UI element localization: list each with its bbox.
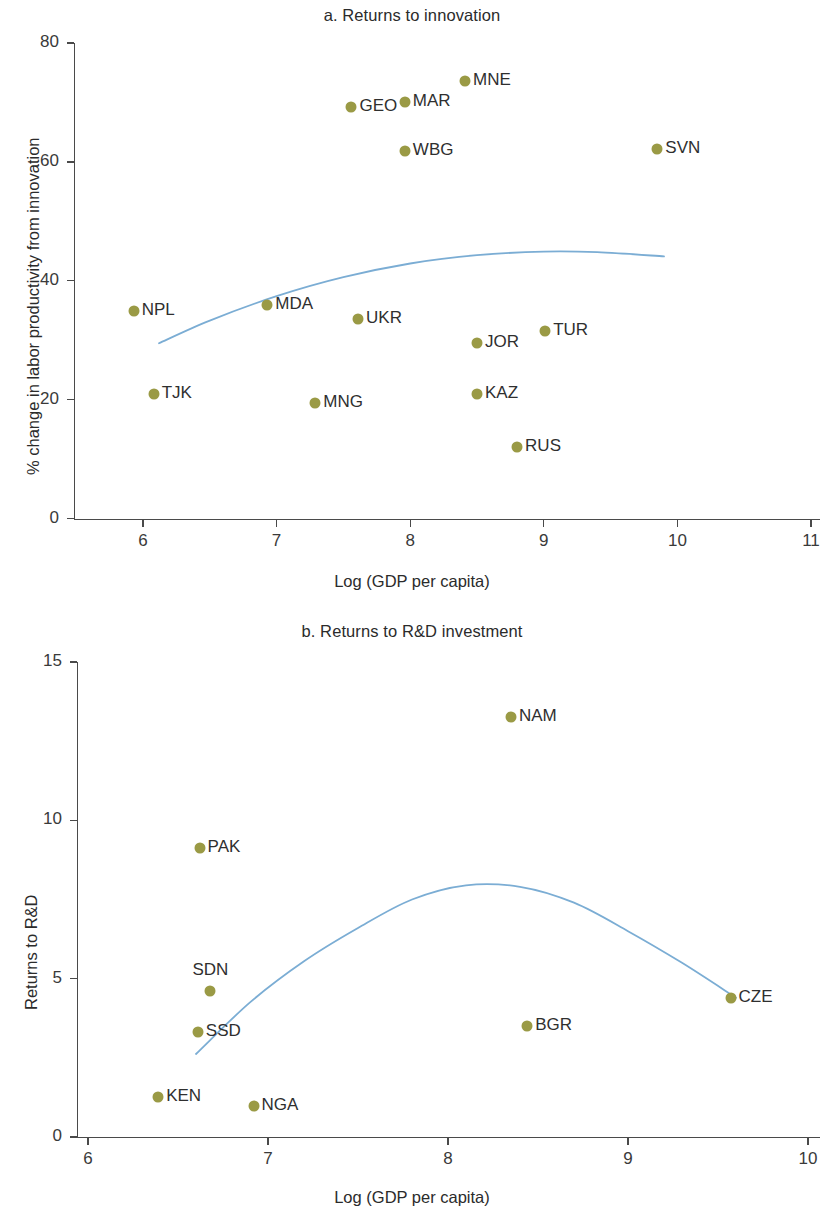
x-tick-panel_b-9 xyxy=(627,1138,628,1145)
y-tick-label-panel_a-40: 40 xyxy=(4,270,59,290)
y-tick-label-panel_a-0: 0 xyxy=(4,508,59,528)
x-tick-label-panel_a-11: 11 xyxy=(781,531,824,551)
x-tick-label-panel_a-10: 10 xyxy=(647,531,707,551)
data-point-WBG xyxy=(399,146,410,157)
data-point-label-GEO: GEO xyxy=(359,96,397,116)
panel-b-x-axis-title: Log (GDP per capita) xyxy=(0,1188,824,1207)
data-point-KEN xyxy=(153,1092,164,1103)
y-tick-panel_a-80 xyxy=(67,42,74,43)
x-tick-panel_a-7 xyxy=(276,520,277,527)
data-point-SVN xyxy=(652,144,663,155)
chart-panel-a: a. Returns to innovation % change in lab… xyxy=(0,0,824,610)
y-tick-label-panel_b-0: 0 xyxy=(7,1126,62,1146)
data-point-MNE xyxy=(459,76,470,87)
data-point-label-BGR: BGR xyxy=(535,1015,572,1035)
data-point-KAZ xyxy=(472,389,483,400)
data-point-NPL xyxy=(128,306,139,317)
x-tick-label-panel_b-9: 9 xyxy=(598,1149,658,1169)
y-tick-label-panel_a-60: 60 xyxy=(4,151,59,171)
x-tick-panel_b-10 xyxy=(807,1138,808,1145)
data-point-SDN xyxy=(205,986,216,997)
x-tick-label-panel_a-8: 8 xyxy=(380,531,440,551)
panel-a-y-axis-line xyxy=(74,43,75,520)
data-point-MAR xyxy=(399,97,410,108)
data-point-label-NAM: NAM xyxy=(519,706,557,726)
data-point-label-CZE: CZE xyxy=(739,987,773,1007)
trendline-panel_b xyxy=(0,610,824,1170)
data-point-label-WBG: WBG xyxy=(413,140,454,160)
panel-a-plot-area: 02040608067891011NPLTJKMDAMNGGEOUKRMARWB… xyxy=(0,0,824,540)
y-tick-panel_a-60 xyxy=(67,161,74,162)
data-point-label-PAK: PAK xyxy=(208,837,241,857)
data-point-TJK xyxy=(148,389,159,400)
x-tick-panel_b-6 xyxy=(87,1138,88,1145)
panel-a-x-axis-title: Log (GDP per capita) xyxy=(0,572,824,591)
y-tick-panel_b-5 xyxy=(70,978,77,979)
y-tick-panel_a-20 xyxy=(67,399,74,400)
data-point-MNG xyxy=(310,398,321,409)
x-tick-panel_a-8 xyxy=(410,520,411,527)
data-point-label-KEN: KEN xyxy=(166,1086,201,1106)
x-tick-label-panel_a-6: 6 xyxy=(113,531,173,551)
y-tick-label-panel_b-5: 5 xyxy=(7,968,62,988)
x-tick-panel_b-7 xyxy=(267,1138,268,1145)
panel-a-x-axis-line xyxy=(74,519,820,520)
data-point-UKR xyxy=(353,314,364,325)
x-tick-panel_a-6 xyxy=(142,520,143,527)
x-tick-panel_a-9 xyxy=(543,520,544,527)
y-tick-panel_b-15 xyxy=(70,661,77,662)
data-point-label-MDA: MDA xyxy=(275,294,313,314)
data-point-label-RUS: RUS xyxy=(525,436,561,456)
data-point-label-SVN: SVN xyxy=(665,138,700,158)
y-tick-label-panel_a-80: 80 xyxy=(4,32,59,52)
y-tick-panel_b-0 xyxy=(70,1136,77,1137)
y-tick-label-panel_b-15: 15 xyxy=(7,651,62,671)
data-point-label-SDN: SDN xyxy=(192,960,228,980)
data-point-label-JOR: JOR xyxy=(485,332,519,352)
data-point-label-SSD: SSD xyxy=(206,1021,241,1041)
data-point-NAM xyxy=(506,712,517,723)
y-tick-label-panel_b-10: 10 xyxy=(7,809,62,829)
x-tick-label-panel_b-7: 7 xyxy=(238,1149,298,1169)
panel-b-y-axis-line xyxy=(77,662,78,1138)
data-point-label-KAZ: KAZ xyxy=(485,383,518,403)
y-tick-panel_a-40 xyxy=(67,280,74,281)
data-point-RUS xyxy=(512,442,523,453)
data-point-label-MNG: MNG xyxy=(323,392,363,412)
data-point-label-MAR: MAR xyxy=(413,91,451,111)
data-point-JOR xyxy=(472,337,483,348)
data-point-SSD xyxy=(192,1026,203,1037)
x-tick-label-panel_b-10: 10 xyxy=(778,1149,824,1169)
y-tick-panel_b-10 xyxy=(70,820,77,821)
data-point-MDA xyxy=(262,300,273,311)
x-tick-label-panel_a-7: 7 xyxy=(247,531,307,551)
data-point-NGA xyxy=(248,1100,259,1111)
trendline-panel_a xyxy=(0,0,824,560)
panel-b-plot-area: 051015678910KENSSDPAKSDNNGANAMBGRCZE xyxy=(0,610,824,1150)
y-tick-panel_a-0 xyxy=(67,518,74,519)
x-tick-panel_b-8 xyxy=(447,1138,448,1145)
x-tick-label-panel_b-8: 8 xyxy=(418,1149,478,1169)
data-point-label-TUR: TUR xyxy=(553,320,588,340)
x-tick-label-panel_b-6: 6 xyxy=(58,1149,118,1169)
data-point-PAK xyxy=(194,843,205,854)
chart-panel-b: b. Returns to R&D investment Returns to … xyxy=(0,610,824,1217)
y-tick-label-panel_a-20: 20 xyxy=(4,389,59,409)
x-tick-panel_a-11 xyxy=(810,520,811,527)
data-point-label-UKR: UKR xyxy=(366,308,402,328)
x-tick-panel_a-10 xyxy=(677,520,678,527)
data-point-CZE xyxy=(725,993,736,1004)
data-point-GEO xyxy=(346,102,357,113)
data-point-label-NPL: NPL xyxy=(142,300,175,320)
data-point-label-NGA: NGA xyxy=(262,1095,299,1115)
data-point-label-MNE: MNE xyxy=(473,70,511,90)
data-point-label-TJK: TJK xyxy=(162,383,192,403)
x-tick-label-panel_a-9: 9 xyxy=(514,531,574,551)
data-point-BGR xyxy=(522,1021,533,1032)
data-point-TUR xyxy=(540,326,551,337)
